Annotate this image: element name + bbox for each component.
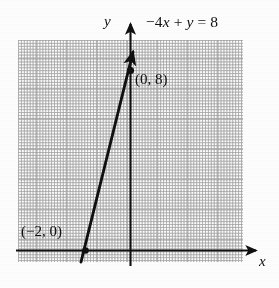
equation-lead: −4 bbox=[146, 13, 163, 30]
equation-plus: + bbox=[170, 13, 187, 30]
plotted-line bbox=[81, 52, 133, 262]
graph-figure: y x −4x + y = 8 (0, 8) (−2, 0) bbox=[0, 0, 279, 288]
equation-equals: = bbox=[193, 13, 210, 30]
x-axis-label: x bbox=[259, 254, 266, 269]
equation-constant: 8 bbox=[210, 13, 218, 30]
equation-label: −4x + y = 8 bbox=[146, 14, 218, 30]
y-intercept-label: (0, 8) bbox=[135, 72, 168, 87]
equation-var-x: x bbox=[163, 13, 170, 30]
y-axis-label: y bbox=[104, 14, 111, 29]
plot-canvas bbox=[0, 0, 279, 288]
x-intercept-label: (−2, 0) bbox=[21, 224, 62, 239]
point-y-intercept bbox=[127, 67, 134, 74]
point-x-intercept bbox=[82, 247, 89, 254]
